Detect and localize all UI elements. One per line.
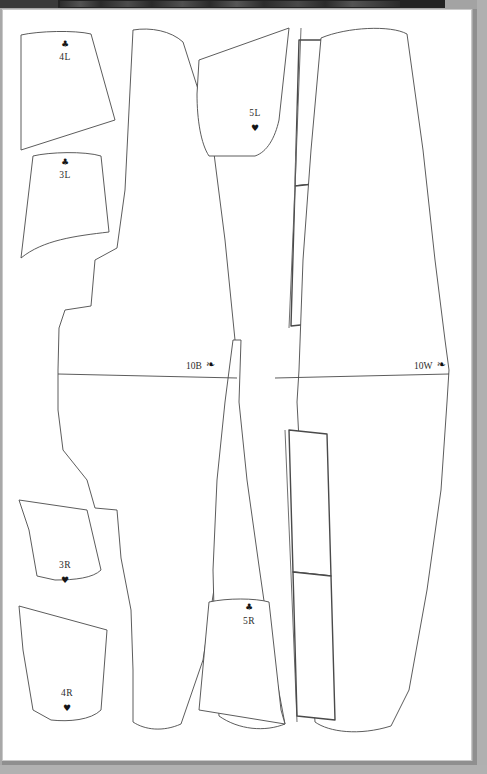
club-icon-4l: ♣ <box>51 40 79 49</box>
club-icon-3l: ♣ <box>51 158 79 167</box>
heart-icon-5l: ♥ <box>241 124 269 133</box>
piece-label-10b-text: 10B <box>186 361 202 371</box>
piece-label-10w-text: 10W <box>414 361 432 371</box>
heart-icon-3r: ♥ <box>51 576 79 585</box>
club-icon-5r: ♣ <box>235 603 263 612</box>
heart-icon-4r: ♥ <box>53 704 81 713</box>
piece-label-5r: 5R <box>235 616 263 626</box>
toolbar-menu-area[interactable] <box>0 0 58 8</box>
pattern-page: ♣ 4L ♣ 3L 5L ♥ 10B ❧ 10W ❧ 3R ♥ 4R ♥ ♣ 5… <box>2 9 472 761</box>
piece-label-10w: 10W ❧ <box>414 360 446 371</box>
piece-label-10b: 10B ❧ <box>186 360 215 371</box>
piece-label-3l: 3L <box>51 170 79 180</box>
pattern-piece-strip-lower <box>289 430 331 576</box>
arrow-marker-icon-10w: ❧ <box>436 359 445 370</box>
piece-label-3r: 3R <box>51 560 79 570</box>
toolbar-title-strip <box>60 1 400 7</box>
pattern-piece-3l <box>21 153 109 258</box>
pattern-drawing <box>3 10 473 762</box>
piece-label-4r: 4R <box>53 688 81 698</box>
viewer-root: ♣ 4L ♣ 3L 5L ♥ 10B ❧ 10W ❧ 3R ♥ 4R ♥ ♣ 5… <box>0 0 487 774</box>
viewer-bottom-gutter <box>0 765 487 774</box>
pattern-piece-5l <box>197 28 289 156</box>
pattern-piece-strip-lower-2 <box>293 572 335 720</box>
piece-label-4l: 4L <box>51 52 79 62</box>
arrow-marker-icon-10b: ❧ <box>206 359 215 370</box>
pattern-piece-4l <box>21 31 115 150</box>
piece-label-5l: 5L <box>241 108 269 118</box>
page-shadow-right <box>473 9 477 764</box>
viewer-right-gutter <box>477 0 487 774</box>
document-viewer-toolbar[interactable] <box>0 0 445 8</box>
